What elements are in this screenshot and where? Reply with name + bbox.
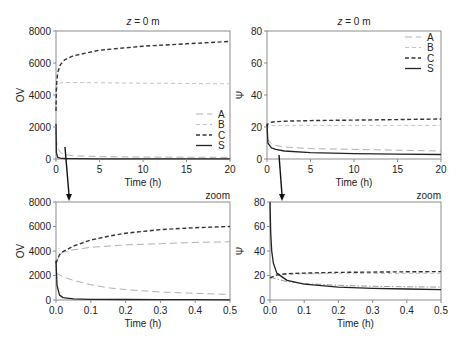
y-tick-label: 40 [251,90,263,101]
arrow-head-icon [279,194,285,201]
figure: 0200040006000800005101520Time (h)OVz = 0… [0,0,462,341]
x-tick-label: 15 [392,164,404,175]
x-tick-label: 10 [137,164,149,175]
series-line-a [56,127,230,157]
panel-top-right: 02040608005101520Time (h)Ψz = 0 mABCS [235,16,447,188]
series-line-c [56,41,230,111]
x-tick-label: 0.1 [84,305,98,316]
panel-top-left: 0200040006000800005101520Time (h)OVz = 0… [15,16,236,188]
legend-label-c: C [427,53,434,64]
x-tick-label: 0.5 [434,305,448,316]
plot-frame [56,31,230,159]
x-tick-label: 5 [308,164,314,175]
x-tick-label: 0.1 [297,305,311,316]
y-tick-label: 0 [259,295,265,306]
x-tick-label: 20 [224,164,236,175]
y-axis-label: OV [15,87,26,102]
y-tick-label: 6000 [29,221,52,232]
series-line-b [56,242,230,263]
x-tick-label: 20 [435,164,447,175]
x-axis-label: Time (h) [125,177,162,188]
series-line-b [56,83,230,112]
panel-title: z = 0 m [125,16,159,27]
x-tick-label: 10 [348,164,360,175]
x-tick-label: 0.2 [119,305,133,316]
arrow-line [65,147,69,195]
x-axis-label: Time (h) [336,177,373,188]
y-axis-label: OV [15,243,26,258]
legend: ABCS [405,32,434,75]
panel-title: z = 0 m [336,16,370,27]
legend-label-b: B [427,42,434,53]
x-tick-label: 0.0 [49,305,63,316]
y-tick-label: 0 [256,154,262,165]
series-line-s [270,202,441,290]
panel-bottom-right: 0204060800.00.10.20.30.40.5Time (h)Ψzoom [235,190,448,329]
legend-label-b: B [218,119,225,130]
x-tick-label: 0.3 [366,305,380,316]
series-line-c [270,272,441,278]
legend-label-s: S [427,63,434,74]
legend: ABCS [196,109,225,152]
y-tick-label: 80 [254,197,266,208]
y-tick-label: 4000 [29,90,52,101]
x-tick-label: 0.4 [188,305,202,316]
y-axis-label: Ψ [235,91,246,99]
y-tick-label: 20 [254,270,266,281]
y-tick-label: 8000 [29,26,52,37]
x-tick-label: 0.2 [331,305,345,316]
x-tick-label: 0.4 [400,305,414,316]
y-tick-label: 0 [45,154,51,165]
panel-bottom-left: 020004000600080000.00.10.20.30.40.5Time … [15,190,237,329]
legend-label-a: A [427,32,434,43]
x-tick-label: 0.5 [223,305,237,316]
x-tick-label: 15 [181,164,193,175]
series-line-a [267,127,441,151]
zoom-label: zoom [417,190,441,201]
y-tick-label: 4000 [29,246,52,257]
legend-label-s: S [218,140,225,151]
arrow-line [279,155,282,195]
arrow-head-icon [66,194,72,201]
series-line-a [56,273,230,294]
y-tick-label: 40 [254,246,266,257]
series-line-c [56,227,230,264]
x-tick-label: 0.3 [153,305,167,316]
y-tick-label: 20 [251,122,263,133]
series-line-b [270,273,441,279]
series-line-b [267,125,441,130]
y-tick-label: 80 [251,26,263,37]
x-tick-label: 0 [264,164,270,175]
x-tick-label: 5 [97,164,103,175]
y-tick-label: 2000 [29,122,52,133]
legend-label-a: A [218,109,225,120]
plot-frame [267,31,441,159]
x-tick-label: 0.0 [263,305,277,316]
series-line-s [56,261,230,300]
series-line-s [56,124,230,159]
y-tick-label: 8000 [29,197,52,208]
y-tick-label: 60 [251,58,263,69]
x-axis-label: Time (h) [337,318,374,329]
y-tick-label: 60 [254,221,266,232]
x-tick-label: 0 [53,164,59,175]
x-axis-label: Time (h) [125,318,162,329]
y-tick-label: 2000 [29,270,52,281]
y-axis-label: Ψ [235,247,246,255]
y-tick-label: 0 [45,295,51,306]
plot-frame [56,202,230,300]
y-tick-label: 6000 [29,58,52,69]
zoom-label: zoom [206,190,230,201]
legend-label-c: C [218,130,225,141]
